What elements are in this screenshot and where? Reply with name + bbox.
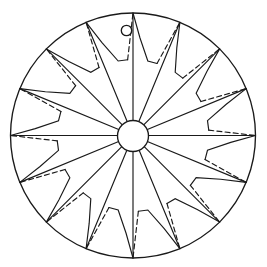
center-hub-circle	[118, 121, 149, 152]
suspension-hole	[121, 25, 131, 35]
rosette-figure	[0, 0, 267, 267]
